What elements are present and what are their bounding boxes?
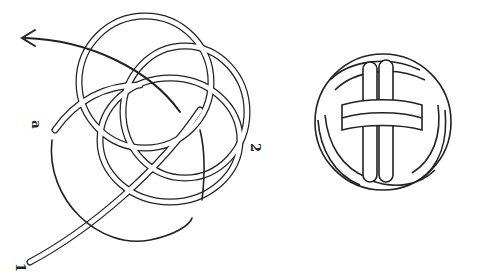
open-knot-weave [22, 16, 247, 262]
label-2: 2 [248, 143, 263, 152]
label-1: 1 [13, 263, 28, 272]
finished-ball-knot [315, 54, 451, 190]
knot-diagram [0, 0, 499, 279]
label-a: a [29, 120, 44, 128]
